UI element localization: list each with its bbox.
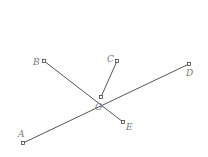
segment-BE xyxy=(44,61,123,122)
point-marker-O xyxy=(100,96,103,99)
point-label-B: B xyxy=(32,57,40,67)
labels-group: A B C D E O xyxy=(17,54,193,139)
point-marker-E xyxy=(122,121,125,124)
segment-AD xyxy=(23,64,189,143)
point-label-A: A xyxy=(17,129,25,139)
point-label-E: E xyxy=(125,122,133,132)
segment-OC xyxy=(101,61,117,97)
point-marker-A xyxy=(22,142,25,145)
point-marker-B xyxy=(43,60,46,63)
point-label-C: C xyxy=(107,54,114,64)
center-label-O: O xyxy=(95,102,103,112)
point-marker-C xyxy=(116,60,119,63)
segments-group xyxy=(23,61,189,143)
point-label-D: D xyxy=(185,68,193,78)
point-marker-D xyxy=(188,63,191,66)
geometry-diagram: A B C D E O xyxy=(0,0,208,157)
